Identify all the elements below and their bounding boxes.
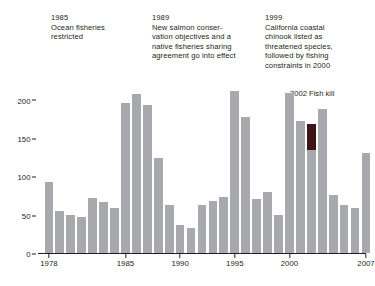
y-axis-tick: 100 xyxy=(17,173,38,182)
bar xyxy=(187,228,196,253)
x-axis-tick-mark xyxy=(48,254,49,258)
x-axis: 197819851990199520002007 xyxy=(38,254,366,278)
bar xyxy=(198,205,207,253)
bar xyxy=(351,208,360,253)
x-axis-tick: 2007 xyxy=(357,254,374,268)
x-axis-tick-mark xyxy=(234,254,235,258)
bar xyxy=(99,202,108,253)
bar xyxy=(110,208,119,253)
bar xyxy=(88,198,97,253)
y-axis-tick-mark xyxy=(32,177,36,178)
bar xyxy=(154,158,163,253)
bar xyxy=(132,94,141,253)
bar xyxy=(340,205,349,253)
y-axis-tick: 200 xyxy=(17,96,38,105)
bar xyxy=(274,215,283,253)
x-axis-tick-label: 1990 xyxy=(171,259,188,268)
bar xyxy=(263,192,272,253)
bar xyxy=(318,109,327,253)
bar xyxy=(143,105,152,253)
x-axis-tick-mark xyxy=(289,254,290,258)
x-axis-tick-label: 2000 xyxy=(281,259,298,268)
bar xyxy=(241,117,250,253)
annotation-1999: 1999 California coastal chinook listed a… xyxy=(265,13,365,71)
x-axis-tick: 1978 xyxy=(40,254,57,268)
y-axis-tick: 0 xyxy=(26,250,38,259)
y-axis-tick-mark xyxy=(32,100,36,101)
bar xyxy=(329,195,338,253)
bar xyxy=(121,103,130,253)
annotation-1989: 1989 New salmon conser- vation objective… xyxy=(152,13,257,61)
bar xyxy=(77,217,86,253)
x-axis-tick: 1985 xyxy=(117,254,134,268)
y-axis-tick-mark xyxy=(32,253,36,254)
x-axis-tick-mark xyxy=(180,254,181,258)
bar xyxy=(296,121,305,253)
x-axis-tick-label: 2007 xyxy=(357,259,374,268)
plot-area: 050100150200 xyxy=(38,88,366,254)
x-axis-tick-mark xyxy=(125,254,126,258)
y-axis-tick-label: 200 xyxy=(17,96,30,105)
x-axis-tick: 2000 xyxy=(281,254,298,268)
y-axis-tick: 50 xyxy=(22,211,38,220)
y-axis-tick: 150 xyxy=(17,134,38,143)
x-axis-tick: 1995 xyxy=(226,254,243,268)
fish-kill-highlight-segment xyxy=(307,124,316,150)
bar xyxy=(219,197,228,253)
y-axis-tick-mark xyxy=(32,138,36,139)
bar xyxy=(307,139,316,253)
bar xyxy=(285,93,294,253)
y-axis-tick-mark xyxy=(32,215,36,216)
bar xyxy=(66,215,75,253)
bar xyxy=(209,201,218,253)
y-axis-tick-label: 50 xyxy=(22,211,31,220)
annotation-1985: 1985 Ocean fisheries restricted xyxy=(51,13,146,42)
x-axis-tick-label: 1995 xyxy=(226,259,243,268)
bar xyxy=(45,182,54,253)
x-axis-tick-mark xyxy=(365,254,366,258)
x-axis-tick-label: 1978 xyxy=(40,259,57,268)
bar xyxy=(252,199,261,253)
bar xyxy=(230,91,239,253)
bar xyxy=(362,153,371,253)
bar xyxy=(55,211,64,253)
x-axis-tick: 1990 xyxy=(171,254,188,268)
y-axis-tick-label: 0 xyxy=(26,250,30,259)
x-axis-tick-label: 1985 xyxy=(117,259,134,268)
bar xyxy=(165,205,174,253)
y-axis-tick-label: 150 xyxy=(17,134,30,143)
bar xyxy=(176,225,185,253)
y-axis-tick-label: 100 xyxy=(17,173,30,182)
bars-layer xyxy=(38,88,366,254)
